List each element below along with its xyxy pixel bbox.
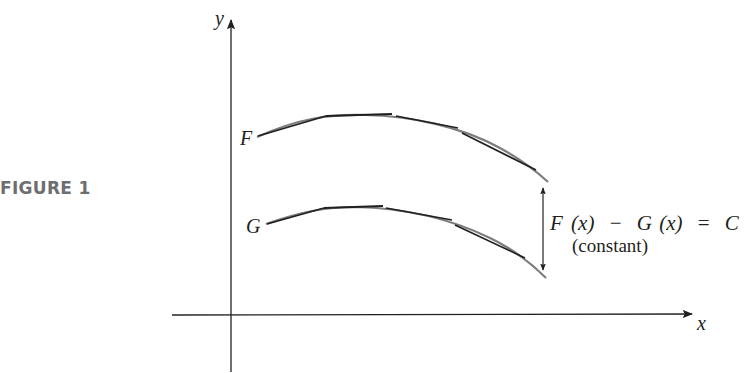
curve-g-segment: [455, 225, 525, 258]
y-axis-label: y: [213, 7, 224, 30]
curve-f-segment: [258, 116, 326, 136]
antiderivative-diagram: y x F G F (x) − G (x) = C (constant): [0, 0, 744, 373]
eq-equals: =: [698, 211, 710, 235]
curve-f-label: F: [239, 127, 253, 149]
curve-f-path: [257, 115, 548, 182]
eq-x2: (x): [659, 211, 682, 235]
curve-g-path: [266, 207, 546, 278]
curve-f: F: [239, 114, 548, 182]
eq-g: G: [637, 211, 652, 235]
eq-f: F: [549, 211, 563, 235]
x-axis: [172, 314, 692, 315]
x-axis-label: x: [696, 312, 706, 334]
eq-c: C: [725, 211, 740, 235]
difference-equation: F (x) − G (x) = C (constant): [549, 211, 740, 257]
curve-g: G: [246, 206, 546, 278]
constant-note: (constant): [572, 235, 648, 257]
eq-minus: −: [610, 211, 622, 235]
curve-f-segment: [396, 116, 458, 128]
axes: y x: [172, 7, 706, 372]
curve-g-segment: [267, 208, 324, 224]
equation-text: F (x) − G (x) = C: [549, 211, 740, 235]
curve-g-segment: [386, 208, 452, 220]
eq-x1: (x): [571, 211, 594, 235]
curve-g-label: G: [246, 215, 261, 237]
curve-f-segment: [462, 133, 536, 170]
